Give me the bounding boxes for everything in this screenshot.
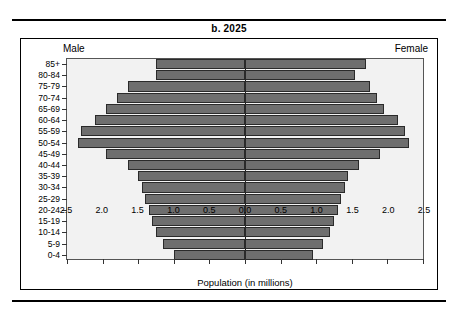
y-axis-label: 60-64 xyxy=(26,115,60,125)
y-axis-label: 40-44 xyxy=(26,160,60,170)
x-axis-tick xyxy=(67,259,68,264)
y-axis-tick xyxy=(62,75,67,76)
bar-male xyxy=(78,138,245,148)
x-axis-tick xyxy=(103,259,104,264)
y-axis-tick xyxy=(62,187,67,188)
y-axis-label: 75-79 xyxy=(26,81,60,91)
x-axis-tick xyxy=(281,259,282,264)
x-axis-tick-label: 1.5 xyxy=(346,205,359,215)
x-axis-tick-label: 1.0 xyxy=(167,205,180,215)
bar-female xyxy=(245,104,384,114)
bar-male xyxy=(145,194,245,204)
pyramid-row: 70-74 xyxy=(67,93,423,103)
bar-female xyxy=(245,149,380,159)
bar-female xyxy=(245,205,338,215)
pyramid-row: 45-49 xyxy=(67,149,423,159)
pyramid-row: 35-39 xyxy=(67,171,423,181)
bar-male xyxy=(156,59,245,69)
y-axis-tick xyxy=(62,120,67,121)
bar-female xyxy=(245,194,341,204)
y-axis-tick xyxy=(62,165,67,166)
pyramid-row: 50-54 xyxy=(67,138,423,148)
bar-male xyxy=(152,216,245,226)
y-axis-label: 80-84 xyxy=(26,70,60,80)
y-axis-tick xyxy=(62,98,67,99)
x-axis-tick-label: 2.5 xyxy=(418,205,431,215)
y-axis-label: 85+ xyxy=(26,59,60,69)
y-axis-tick xyxy=(62,143,67,144)
y-axis-label: 15-19 xyxy=(26,216,60,226)
y-axis-tick xyxy=(62,86,67,87)
female-legend-label: Female xyxy=(395,43,428,54)
plot-frame: 85+80-8475-7970-7465-6960-6455-5950-5445… xyxy=(66,58,424,260)
bar-female xyxy=(245,93,377,103)
y-axis-label: 30-34 xyxy=(26,182,60,192)
figure-title: b. 2025 xyxy=(0,23,458,34)
x-axis-tick-label: 0.5 xyxy=(275,205,288,215)
bar-male xyxy=(81,126,245,136)
pyramid-row: 10-14 xyxy=(67,227,423,237)
bottom-rule xyxy=(12,300,446,302)
y-axis-label: 50-54 xyxy=(26,138,60,148)
x-axis-tick xyxy=(138,259,139,264)
y-axis-tick xyxy=(62,199,67,200)
bar-male xyxy=(128,160,245,170)
x-axis-tick-label: 0.0 xyxy=(239,205,252,215)
y-axis-tick xyxy=(62,64,67,65)
x-axis-tick xyxy=(387,259,388,264)
y-axis-label: 10-14 xyxy=(26,227,60,237)
top-rule xyxy=(12,19,446,21)
bar-female xyxy=(245,70,355,80)
bar-female xyxy=(245,182,345,192)
x-axis-tick xyxy=(209,259,210,264)
y-axis-label: 45-49 xyxy=(26,149,60,159)
y-axis-tick xyxy=(62,131,67,132)
x-axis-tick xyxy=(174,259,175,264)
bar-male xyxy=(95,115,245,125)
pyramid-row: 5-9 xyxy=(67,239,423,249)
x-axis-tick xyxy=(316,259,317,264)
male-legend-label: Male xyxy=(63,43,85,54)
pyramid-row: 55-59 xyxy=(67,126,423,136)
y-axis-label: 70-74 xyxy=(26,93,60,103)
x-axis-tick xyxy=(423,259,424,264)
plot-area: 85+80-8475-7970-7465-6960-6455-5950-5445… xyxy=(67,59,423,259)
pyramid-row: 65-69 xyxy=(67,104,423,114)
pyramid-row: 80-84 xyxy=(67,70,423,80)
bar-female xyxy=(245,115,398,125)
bar-male xyxy=(156,70,245,80)
bar-male xyxy=(117,93,245,103)
pyramid-row: 85+ xyxy=(67,59,423,69)
y-axis-tick xyxy=(62,232,67,233)
bar-male xyxy=(149,205,245,215)
bar-female xyxy=(245,227,330,237)
bar-female xyxy=(245,160,359,170)
y-axis-label: 5-9 xyxy=(26,239,60,249)
y-axis-tick xyxy=(62,221,67,222)
bar-male xyxy=(106,149,245,159)
bar-female xyxy=(245,81,370,91)
bar-female xyxy=(245,138,409,148)
y-axis-tick xyxy=(62,176,67,177)
y-axis-tick xyxy=(62,154,67,155)
bar-female xyxy=(245,59,366,69)
x-axis-tick-label: 2.0 xyxy=(382,205,395,215)
pyramid-row: 30-34 xyxy=(67,182,423,192)
x-axis-tick-label: 1.5 xyxy=(131,205,144,215)
bar-female xyxy=(245,239,323,249)
pyramid-row: 40-44 xyxy=(67,160,423,170)
bar-female xyxy=(245,216,334,226)
bar-male xyxy=(163,239,245,249)
bar-male xyxy=(128,81,245,91)
bar-male xyxy=(142,182,245,192)
x-axis-tick-label: 0.5 xyxy=(203,205,216,215)
y-axis-tick xyxy=(62,244,67,245)
x-axis-tick xyxy=(352,259,353,264)
pyramid-row: 60-64 xyxy=(67,115,423,125)
y-axis-tick xyxy=(62,109,67,110)
y-axis-label: 55-59 xyxy=(26,126,60,136)
y-axis-label: 0-4 xyxy=(26,250,60,260)
x-axis-tick xyxy=(245,259,246,264)
bar-male xyxy=(106,104,245,114)
bar-female xyxy=(245,250,313,260)
